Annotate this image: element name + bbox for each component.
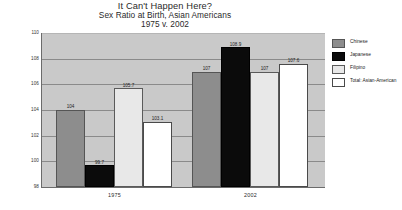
bar-2002-japanese[interactable]: 108.9 [221, 47, 250, 187]
y-axis-tick-108: 108 [3, 57, 39, 62]
x-axis-tick-2002: 2002 [191, 192, 310, 198]
bar-2002-filipino[interactable]: 107 [250, 72, 279, 188]
legend-item-label: Filipino [350, 66, 365, 71]
y-axis-tick-104: 104 [3, 108, 39, 113]
legend-swatch-icon [332, 65, 345, 74]
chart-title-block: It Can't Happen Here? Sex Ratio at Birth… [0, 1, 330, 29]
legend-item-chinese[interactable]: Chinese [332, 38, 402, 51]
legend-item-label: Total: Asian-American [350, 79, 396, 84]
bar-1975-total[interactable]: 103.1 [143, 122, 172, 188]
bar-value-label: 107.6 [288, 59, 300, 64]
legend-item-japanese[interactable]: Japanese [332, 51, 402, 64]
plot-area: 104 99.7 105.7 103.1 107 108.9 107 [41, 33, 325, 188]
legend-item-filipino[interactable]: Filipino [332, 64, 402, 77]
y-axis-tick-100: 100 [3, 159, 39, 164]
bar-1975-japanese[interactable]: 99.7 [85, 165, 114, 187]
y-axis-tick-102: 102 [3, 134, 39, 139]
bar-value-label: 103.1 [152, 117, 164, 122]
y-axis-tick-110: 110 [3, 31, 39, 36]
bar-1975-chinese[interactable]: 104 [56, 110, 85, 187]
bar-group-1975: 104 99.7 105.7 103.1 [56, 33, 175, 187]
bar-value-label: 108.9 [230, 43, 242, 48]
legend-item-total-asian-american[interactable]: Total: Asian-American [332, 77, 402, 90]
legend: Chinese Japanese Filipino Total: Asian-A… [332, 38, 402, 90]
legend-item-label: Chinese [350, 40, 368, 45]
bar-value-label: 107 [203, 67, 211, 72]
bar-value-label: 107 [261, 67, 269, 72]
legend-swatch-icon [332, 78, 345, 87]
legend-swatch-icon [332, 39, 345, 48]
y-axis-tick-98: 98 [3, 185, 39, 190]
chart-subtitle-secondary: 1975 v. 2002 [0, 20, 330, 29]
bar-value-label: 99.7 [95, 161, 104, 166]
x-axis-tick-1975: 1975 [55, 192, 174, 198]
bar-2002-total[interactable]: 107.6 [279, 64, 308, 187]
y-axis: 110 108 106 104 102 100 98 [0, 33, 39, 187]
bar-2002-chinese[interactable]: 107 [192, 72, 221, 188]
bar-value-label: 105.7 [123, 84, 135, 89]
chart-container: It Can't Happen Here? Sex Ratio at Birth… [0, 0, 402, 210]
bar-1975-filipino[interactable]: 105.7 [114, 88, 143, 187]
bar-value-label: 104 [67, 105, 75, 110]
legend-swatch-icon [332, 52, 345, 61]
y-axis-tick-106: 106 [3, 82, 39, 87]
legend-item-label: Japanese [350, 53, 371, 58]
bar-group-2002: 107 108.9 107 107.6 [192, 33, 311, 187]
